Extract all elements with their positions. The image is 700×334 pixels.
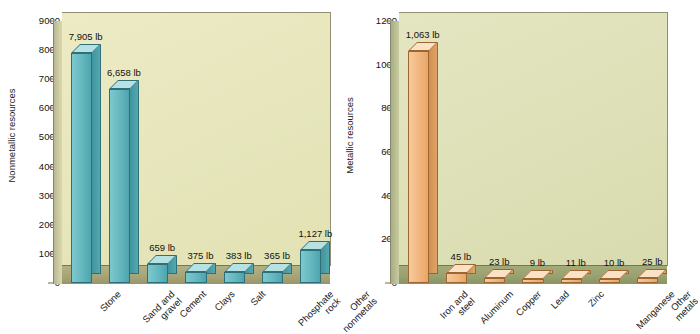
bar-phosphate-rock [262,263,292,283]
bar-aluminum [446,264,476,283]
bar-value-label: 10 lb [604,257,625,268]
bar-top-face [637,269,667,278]
bar-front-face [262,272,283,283]
bar-front-face [522,279,543,283]
bar-front-face [484,278,505,283]
bar-front-face [224,272,245,283]
bar-value-label: 23 lb [489,256,510,267]
bar-front-face [408,51,429,283]
bar-manganese [599,270,629,283]
x-category-label: Phosphaterock [296,289,342,334]
bar-front-face [300,250,321,283]
bar-side-face [92,44,101,274]
y-tick-mark [385,21,390,22]
y-tick-mark [385,64,390,65]
bar-value-label: 1,127 lb [298,228,332,239]
y-tick-mark [48,79,53,80]
bar-value-label: 9 lb [530,257,545,268]
bar-front-face [446,273,467,283]
bar-value-label: 45 lb [451,251,472,262]
bar-cement [147,255,177,283]
y-tick-mark [48,21,53,22]
bar-front-face [185,272,206,283]
x-category-label: Copper [514,289,543,318]
y-tick-mark [48,108,53,109]
bar-value-label: 7,905 lb [69,31,103,42]
bar-top-face [561,270,591,279]
bar-top-face [522,270,552,279]
x-category-label: Salt [249,289,268,308]
y-tick-mark [385,195,390,196]
plot-backwall-left [62,12,331,266]
bar-value-label: 11 lb [566,257,586,268]
plot-backwall-right [399,12,668,266]
bar-top-face [599,270,629,279]
bar-front-face [637,278,658,283]
bar-value-label: 375 lb [188,250,214,261]
bar-copper [484,269,514,283]
chart-panel-nonmetallic: Nonmetallic resources 010002000300040005… [0,0,337,334]
bar-front-face [147,264,168,283]
chart-panel-metallic: Metallic resources 020040060080010001200… [337,0,674,334]
bar-side-face [429,42,438,274]
bar-salt [224,263,254,283]
bar-stone [71,44,101,283]
y-tick-mark [48,253,53,254]
bar-value-label: 383 lb [226,250,252,261]
bar-front-face [71,53,92,283]
bar-value-label: 25 lb [642,256,663,267]
bar-other-nonmetals [300,241,330,283]
bar-other-metals [637,269,667,283]
bar-iron-and-steel [408,42,438,283]
y-tick-mark [385,108,390,109]
bar-value-label: 6,658 lb [107,67,141,78]
x-category-label: Zinc [587,289,607,309]
y-tick-mark [385,152,390,153]
y-tick-mark [48,137,53,138]
x-category-label: Iron andsteel [438,289,477,328]
y-tick-mark [385,283,390,284]
x-category-label: Stone [98,289,123,314]
y-tick-mark [48,166,53,167]
y-tick-mark [48,224,53,225]
bar-sand-and-gravel [109,80,139,283]
bar-value-label: 365 lb [264,250,290,261]
y-tick-mark [48,50,53,51]
bar-side-face [130,80,139,274]
bar-value-label: 1,063 lb [406,29,440,40]
x-category-label: Lead [549,289,571,311]
bar-front-face [599,279,620,283]
bar-zinc [561,270,591,283]
bar-front-face [109,89,130,283]
bar-lead [522,270,552,283]
bar-clays [185,263,215,283]
x-category-label: Clays [213,289,237,313]
y-tick-mark [385,239,390,240]
bar-value-label: 659 lb [149,242,175,253]
y-tick-mark [48,195,53,196]
y-tick-mark [48,283,53,284]
bar-front-face [561,279,582,283]
x-category-label: Aluminum [479,289,516,326]
